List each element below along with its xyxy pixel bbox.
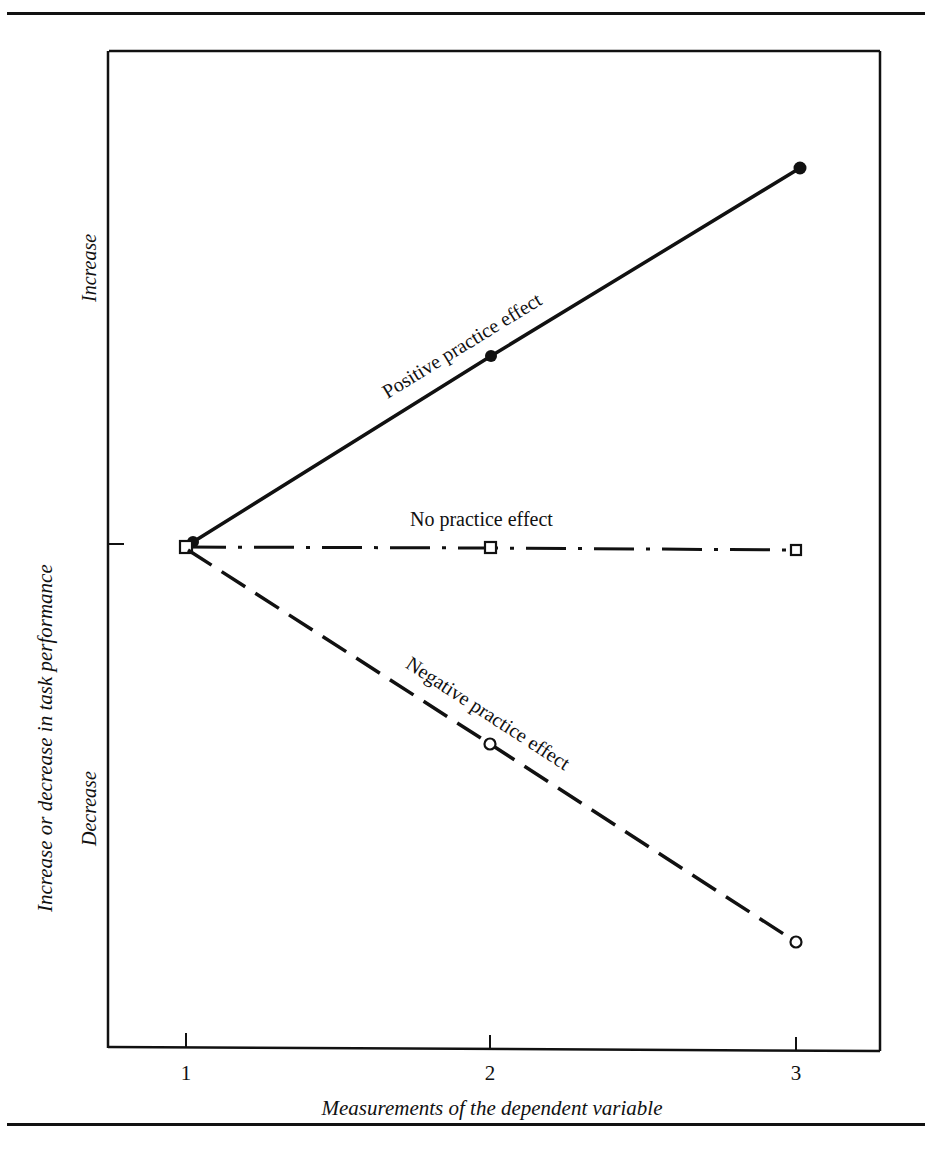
y-bottom-label: Decrease <box>78 771 101 846</box>
x-tick-label-3: 3 <box>791 1061 802 1086</box>
marker-open-square <box>485 542 496 553</box>
marker-open-circle <box>791 937 802 948</box>
series-negative <box>188 550 802 948</box>
label-none: No practice effect <box>410 508 553 531</box>
series-positive <box>187 162 807 549</box>
series-none <box>180 541 801 555</box>
y-axis-title: Increase or decrease in task performance <box>33 564 58 912</box>
y-top-label: Increase <box>78 234 101 302</box>
marker-open-circle <box>485 739 496 750</box>
marker-open-square <box>791 545 801 555</box>
x-tick-label-1: 1 <box>181 1061 192 1086</box>
x-axis-title: Measurements of the dependent variable <box>322 1096 663 1121</box>
marker-filled-circle <box>485 350 497 362</box>
x-tick-label-2: 2 <box>485 1061 496 1086</box>
marker-filled-circle <box>794 162 807 175</box>
line-chart <box>0 0 925 1171</box>
